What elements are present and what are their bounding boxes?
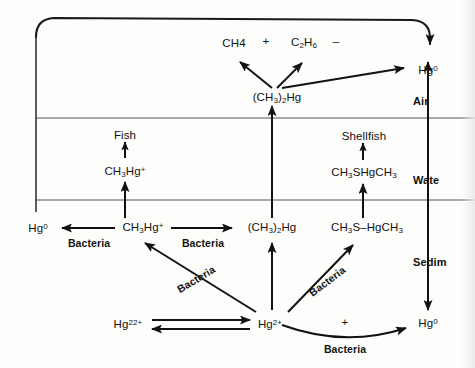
- species-methylmercury-water: CH3Hg+: [104, 165, 145, 180]
- process-bacteria-demethylation: Bacteria: [68, 237, 110, 249]
- zone-label-water: Wate: [413, 174, 439, 186]
- arrow-dimethylmercury-to-mercury-zero: [282, 68, 404, 88]
- zone-label-sediment: Sedim: [413, 256, 447, 268]
- species-mercuric-ion: Hg2+: [258, 318, 282, 331]
- species-mercury-zero-sediment-right: Hg0: [418, 317, 437, 330]
- species-ethane: C2H6: [291, 36, 317, 50]
- species-mercurous-ion: Hg22+: [114, 318, 143, 331]
- species-mercury-zero-air: Hg0: [418, 64, 437, 77]
- zone-boundaries: [36, 37, 475, 212]
- plus-sign-air: +: [263, 35, 270, 47]
- minus-sign-air: –: [333, 35, 340, 47]
- zone-label-air: Air: [413, 95, 429, 107]
- mercury-cycle-diagram: CH4 + C2H6 – (CH3)2Hg Hg0 Air Fish CH3Hg…: [0, 0, 475, 368]
- diagram-vector-layer: [0, 0, 475, 368]
- arrow-dimethylmercury-to-methane: [240, 62, 272, 88]
- species-dimethylmercury-sediment: (CH3)2Hg: [248, 221, 297, 235]
- process-bacteria-methylation: Bacteria: [182, 237, 224, 249]
- species-methylmercury-sediment: CH3Hg+: [122, 221, 163, 236]
- species-dimethylthiomercury-water: CH3SHgCH3: [331, 166, 396, 180]
- organism-fish: Fish: [114, 129, 136, 141]
- species-mercury-zero-sediment-left: Hg0: [28, 222, 47, 235]
- species-dimethylmercury-air: (CH3)2Hg: [253, 91, 302, 105]
- organism-shellfish: Shellfish: [342, 130, 386, 142]
- arrow-dimethylmercury-to-ethane: [277, 63, 302, 88]
- process-bacteria-reduction: Bacteria: [324, 343, 366, 355]
- species-methane: CH4: [222, 37, 245, 49]
- plus-sign-reduction: +: [342, 316, 349, 328]
- species-dimethylthiomercury-sediment: CH3S–HgCH3: [331, 221, 403, 235]
